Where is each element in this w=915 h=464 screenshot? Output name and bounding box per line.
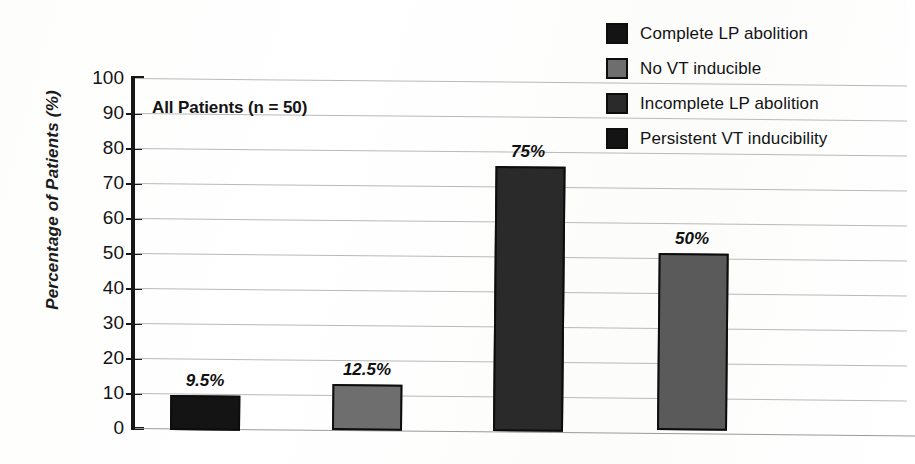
y-axis-tick-label: 80 <box>72 138 124 157</box>
chart-annotation: All Patients (n = 50) <box>152 98 307 118</box>
y-axis-tick-label: 0 <box>72 418 124 437</box>
bar <box>493 166 566 431</box>
legend-label: Complete LP abolition <box>640 24 808 44</box>
bar-value-label: 12.5% <box>317 360 417 380</box>
y-axis-tick-label: 70 <box>72 173 124 192</box>
y-axis-tick-label: 90 <box>72 103 124 122</box>
legend-swatch-icon <box>606 23 628 44</box>
bar-value-label: 75% <box>478 142 578 162</box>
legend-swatch-icon <box>606 58 628 79</box>
bar-value-label: 9.5% <box>155 371 255 391</box>
bar-value-label: 50% <box>642 229 742 249</box>
bar <box>657 253 729 431</box>
y-axis-tick-label: 50 <box>72 243 124 262</box>
y-axis-tick-label: 30 <box>72 313 124 332</box>
legend-item[interactable]: No VT inducible <box>606 51 906 86</box>
legend-item[interactable]: Incomplete LP abolition <box>606 86 906 121</box>
legend-item[interactable]: Complete LP abolition <box>606 16 906 51</box>
bar <box>332 384 402 430</box>
legend-label: No VT inducible <box>640 59 761 79</box>
y-axis-tick-labels: 1009080706050403020100 <box>72 66 124 430</box>
y-axis-tick-label: 60 <box>72 208 124 227</box>
y-axis-tick-label: 100 <box>72 68 124 87</box>
legend-swatch-icon <box>606 128 628 149</box>
chart-legend: Complete LP abolitionNo VT inducibleInco… <box>606 16 906 156</box>
legend-item[interactable]: Persistent VT inducibility <box>606 121 906 156</box>
legend-label: Incomplete LP abolition <box>640 94 819 114</box>
y-axis-tick-label: 20 <box>72 348 124 367</box>
legend-swatch-icon <box>606 93 628 114</box>
y-axis-tick-label: 10 <box>72 383 124 402</box>
y-axis-title: Percentage of Patients (%) <box>43 50 63 350</box>
bar <box>170 395 240 431</box>
y-axis-tick-label: 40 <box>72 278 124 297</box>
legend-label: Persistent VT inducibility <box>640 129 827 149</box>
